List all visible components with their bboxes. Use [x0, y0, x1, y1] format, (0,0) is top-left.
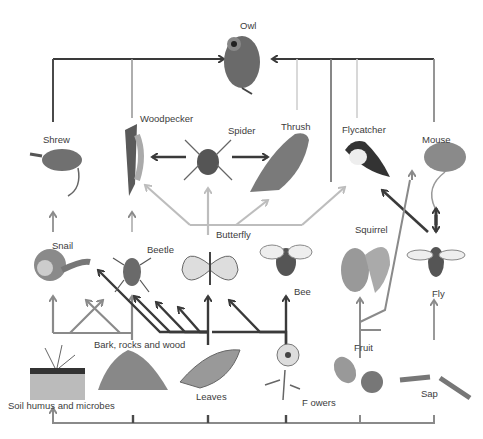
label-flowers: F owers [302, 398, 336, 408]
label-beetle: Beetle [147, 245, 174, 255]
soil-illustration [30, 345, 85, 400]
label-soil: Soil humus and microbes [8, 401, 115, 411]
soil-bark-consumers [53, 296, 132, 340]
label-bark: Bark, rocks and wood [94, 340, 185, 350]
label-shrew: Shrew [43, 135, 70, 145]
butterfly-illustration [182, 252, 238, 285]
label-snail: Snail [52, 241, 73, 251]
flowers-illustration [265, 344, 300, 400]
fly-illustration [407, 247, 465, 277]
beetle-illustration [113, 258, 151, 292]
label-sap: Sap [421, 389, 438, 399]
label-thrush: Thrush [281, 122, 311, 132]
label-woodpecker: Woodpecker [140, 114, 193, 124]
bark-illustration [98, 350, 168, 390]
label-fruit: Fruit [354, 343, 373, 353]
thrush-illustration [250, 133, 309, 192]
squirrel-illustration [341, 247, 390, 293]
fruit-illustration [329, 353, 383, 393]
spider-illustration [184, 140, 232, 180]
bee-illustration [260, 245, 312, 276]
label-squirrel: Squirrel [355, 225, 388, 235]
owl-illustration [224, 36, 260, 94]
label-spider: Spider [228, 126, 255, 136]
label-butterfly: Butterfly [216, 230, 251, 240]
snail-illustration [34, 249, 90, 281]
food-web-diagram [0, 0, 483, 439]
mouse-illustration [424, 142, 466, 208]
label-flycatcher: Flycatcher [342, 125, 386, 135]
shrew-illustration [30, 149, 82, 196]
flycatcher-illustration [345, 141, 390, 177]
label-leaves: Leaves [196, 392, 227, 402]
woodpecker-illustration [125, 124, 141, 196]
label-fly: Fly [432, 289, 445, 299]
leaves-illustration [180, 350, 240, 388]
label-mouse: Mouse [422, 135, 451, 145]
label-owl: Owl [240, 21, 256, 31]
butterfly-predation-network [145, 185, 345, 235]
label-bee: Bee [294, 287, 311, 297]
